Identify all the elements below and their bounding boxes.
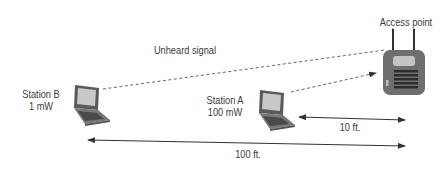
station-a-power: 100 mW — [201, 106, 249, 118]
distance-label-100ft: 100 ft. — [229, 148, 268, 160]
station-a-label: Station A — [201, 94, 249, 106]
laptop-icon-station-a — [259, 90, 295, 131]
access-point-icon — [383, 29, 425, 96]
distance-label-10ft: 10 ft. — [332, 121, 367, 133]
unheard-signal-label: Unheard signal — [145, 44, 224, 56]
station-a-signal-arrow — [291, 73, 376, 92]
distance-arrow-100ft — [88, 140, 405, 146]
laptop-icon-station-b — [74, 85, 110, 126]
distance-arrow-10ft — [299, 117, 405, 120]
station-b-label: Station B — [19, 88, 63, 100]
access-point-label: Access point — [373, 16, 440, 28]
station-b-power: 1 mW — [19, 100, 63, 112]
